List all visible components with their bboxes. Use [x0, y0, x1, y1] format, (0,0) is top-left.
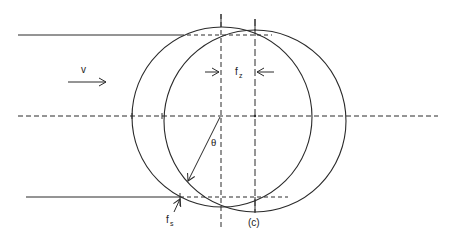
center-dot	[254, 115, 256, 117]
velocity-label: v	[81, 64, 86, 75]
fs-subscript: s	[170, 220, 174, 227]
fs-arrow	[174, 199, 180, 212]
theta-label: θ	[211, 136, 216, 148]
figure-tag: (c)	[248, 217, 260, 228]
fs-label: f	[166, 214, 169, 225]
diagram-figure: v f z θ f s (c)	[0, 0, 458, 238]
fz-subscript: z	[239, 72, 243, 79]
radius-arrow	[188, 117, 220, 181]
left-circle	[132, 27, 312, 207]
fz-label: f	[235, 66, 238, 77]
